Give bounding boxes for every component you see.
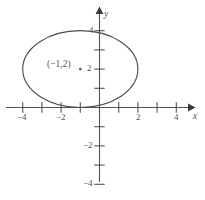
y-axis-label: y <box>104 10 108 20</box>
y-tick-label-neg2: −2 <box>83 141 93 150</box>
y-tick-label-pos4: 4 <box>89 26 94 35</box>
center-point-label: (−1,2) <box>47 60 71 70</box>
y-tick-label-neg4: −4 <box>83 179 93 188</box>
x-tick-label-pos2: 2 <box>136 113 141 122</box>
x-tick-label-neg2: −2 <box>56 113 66 122</box>
y-tick-label-pos2: 2 <box>87 64 92 73</box>
y-axis-arrowhead <box>96 7 104 15</box>
coordinate-plane <box>0 0 205 200</box>
ellipse-figure: −4 −2 2 4 4 2 −2 −4 x y (−1,2) <box>0 0 205 200</box>
center-point-marker <box>79 68 82 71</box>
x-tick-label-pos4: 4 <box>174 113 179 122</box>
x-tick-label-neg4: −4 <box>17 113 27 122</box>
x-axis-label: x <box>193 112 197 122</box>
